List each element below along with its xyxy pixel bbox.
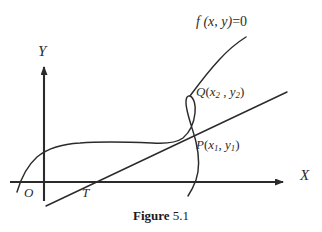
origin-label: O [24,186,33,199]
figure-drawing [0,0,322,232]
point-q-label: Q(x2 , y2) [196,85,244,100]
point-q-separator: , [220,84,230,99]
x-axis-label: X [300,168,309,183]
point-p-label: P(x1, y1) [196,138,240,153]
curve-equation-rhs: =0 [232,14,247,29]
figure-container: f (x, y)=0 Y X O T Q(x2 , y2) P(x1, y1) … [0,0,322,232]
point-p-paren-close: ) [235,137,239,152]
point-q-paren-close: ) [240,84,244,99]
point-t-label: T [82,186,89,199]
y-axis-label: Y [38,44,46,59]
point-q-name: Q [196,84,205,99]
figure-caption: Figure 5.1 [0,208,322,224]
figure-caption-number: 5.1 [173,208,189,223]
curve-equation-text: f (x, y) [196,14,232,29]
curve-equation-label: f (x, y)=0 [196,15,247,29]
point-p-name: P [196,137,204,152]
figure-caption-label: Figure [133,208,170,223]
